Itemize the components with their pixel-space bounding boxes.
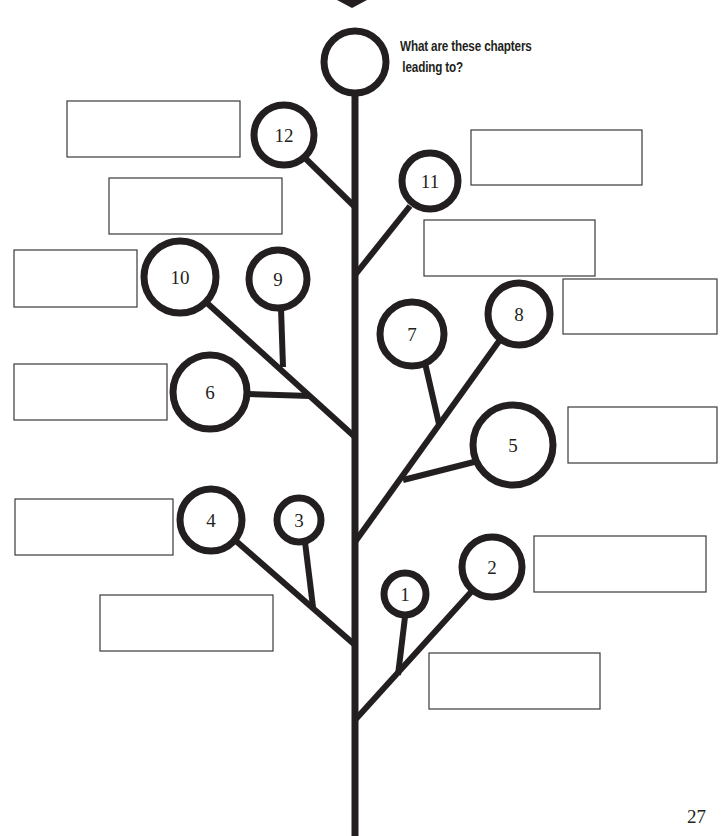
answer-box-9-right[interactable] xyxy=(424,220,595,276)
tree-branches xyxy=(207,0,502,836)
chapter-node-2: 2 xyxy=(462,537,522,597)
destination-node xyxy=(324,31,386,93)
chapter-node-11: 11 xyxy=(402,153,458,209)
answer-box-11[interactable] xyxy=(471,130,642,185)
answer-box-1[interactable] xyxy=(429,653,600,709)
chapter-number: 6 xyxy=(205,382,215,403)
chapter-node-12: 12 xyxy=(254,105,314,165)
chapter-node-5: 5 xyxy=(473,405,553,485)
branch-7 xyxy=(425,363,439,424)
answer-boxes xyxy=(14,101,717,709)
chapter-number: 12 xyxy=(275,125,294,146)
chapter-node-6: 6 xyxy=(173,355,247,429)
answer-box-12[interactable] xyxy=(67,101,240,157)
chapter-tree-diagram: 121110967854312 xyxy=(0,0,727,836)
question-line-1: What are these chapters xyxy=(400,35,532,56)
chapter-number: 4 xyxy=(206,510,216,531)
chapter-node-10: 10 xyxy=(144,241,216,313)
chapter-node-9: 9 xyxy=(249,250,307,308)
branch-6 xyxy=(247,394,310,396)
branch-3 xyxy=(305,542,313,607)
answer-box-8[interactable] xyxy=(563,279,717,334)
chapter-number: 5 xyxy=(508,435,518,456)
chapter-number: 2 xyxy=(487,557,497,578)
chapter-node-3: 3 xyxy=(277,498,321,542)
question-line-2: leading to? xyxy=(400,56,532,77)
branch-11 xyxy=(355,206,410,275)
chapter-number: 9 xyxy=(273,269,283,290)
chapter-number: 11 xyxy=(421,171,439,192)
chapter-number: 1 xyxy=(400,584,410,605)
answer-box-4[interactable] xyxy=(15,499,173,555)
chapter-node-1: 1 xyxy=(384,573,426,615)
branch-12 xyxy=(305,158,355,207)
top-arrow-marker xyxy=(337,0,367,8)
chapter-number: 3 xyxy=(294,510,304,531)
branch-9 xyxy=(281,308,283,367)
chapter-node-4: 4 xyxy=(180,489,242,551)
answer-box-5[interactable] xyxy=(568,407,717,463)
chapter-number: 10 xyxy=(171,267,190,288)
chapter-node-7: 7 xyxy=(380,302,444,366)
answer-box-top-right-mid[interactable] xyxy=(109,178,282,234)
answer-box-6[interactable] xyxy=(14,364,167,420)
question-heading: What are these chapters leading to? xyxy=(400,35,532,77)
chapter-node-8: 8 xyxy=(488,283,550,345)
answer-box-10[interactable] xyxy=(14,250,137,307)
page-number: 27 xyxy=(687,806,706,828)
chapter-number: 7 xyxy=(407,324,417,345)
chapter-number: 8 xyxy=(514,304,524,325)
answer-box-3[interactable] xyxy=(100,595,273,651)
answer-box-2[interactable] xyxy=(534,536,706,592)
